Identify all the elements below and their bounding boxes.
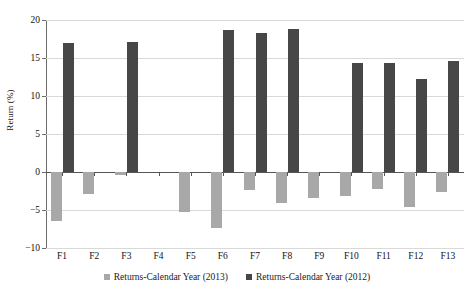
bar bbox=[352, 63, 363, 172]
bar bbox=[256, 33, 267, 172]
bar bbox=[372, 172, 383, 189]
x-tick-label: F13 bbox=[441, 251, 456, 261]
legend-label: Returns-Calendar Year (2013) bbox=[114, 272, 228, 282]
x-tick-label: F11 bbox=[376, 251, 390, 261]
x-tick-mark bbox=[94, 172, 95, 176]
bar bbox=[179, 172, 190, 212]
x-tick-mark bbox=[448, 172, 449, 176]
x-tick-label: F5 bbox=[186, 251, 196, 261]
x-tick-label: F9 bbox=[314, 251, 324, 261]
bar bbox=[83, 172, 94, 194]
legend-swatch-icon bbox=[104, 274, 110, 280]
bar bbox=[404, 172, 415, 207]
bar-chart: Return (%) 20151050−5−10 F1F2F3F4F5F6F7F… bbox=[0, 0, 474, 293]
x-tick-mark bbox=[384, 172, 385, 176]
bar bbox=[416, 79, 427, 172]
x-tick-label: F3 bbox=[121, 251, 131, 261]
x-tick-label: F7 bbox=[250, 251, 260, 261]
x-tick-label: F10 bbox=[344, 251, 359, 261]
y-tick-mark bbox=[42, 248, 46, 249]
x-tick-label: F1 bbox=[57, 251, 67, 261]
legend-item: Returns-Calendar Year (2013) bbox=[104, 272, 228, 282]
x-tick-mark bbox=[255, 172, 256, 176]
x-tick-mark bbox=[351, 172, 352, 176]
bar bbox=[115, 172, 126, 175]
x-tick-mark bbox=[287, 172, 288, 176]
bar bbox=[384, 63, 395, 172]
bar bbox=[288, 29, 299, 172]
x-tick-mark bbox=[319, 172, 320, 176]
bar bbox=[51, 172, 62, 221]
y-tick-label: 20 bbox=[31, 15, 41, 25]
legend-swatch-icon bbox=[246, 274, 252, 280]
y-tick-label: −10 bbox=[25, 243, 40, 253]
y-tick-label: 15 bbox=[31, 53, 41, 63]
x-tick-mark bbox=[223, 172, 224, 176]
x-tick-mark bbox=[62, 172, 63, 176]
bar bbox=[211, 172, 222, 228]
y-tick-label: 10 bbox=[31, 91, 41, 101]
x-tick-mark bbox=[191, 172, 192, 176]
x-tick-label: F4 bbox=[154, 251, 164, 261]
bar bbox=[308, 172, 319, 198]
plot-area: 20151050−5−10 F1F2F3F4F5F6F7F8F9F10F11F1… bbox=[46, 20, 464, 248]
x-tick-label: F2 bbox=[89, 251, 99, 261]
x-tick-label: F8 bbox=[282, 251, 292, 261]
y-tick-label: −5 bbox=[30, 205, 40, 215]
y-tick-label: 5 bbox=[35, 129, 40, 139]
bar bbox=[448, 61, 459, 172]
legend-label: Returns-Calendar Year (2012) bbox=[256, 272, 370, 282]
bar bbox=[276, 172, 287, 203]
x-tick-mark bbox=[126, 172, 127, 176]
x-tick-label: F12 bbox=[408, 251, 423, 261]
x-tick-mark bbox=[159, 172, 160, 176]
x-tick-label: F6 bbox=[218, 251, 228, 261]
bar bbox=[436, 172, 447, 192]
x-tick-mark bbox=[416, 172, 417, 176]
gridline bbox=[46, 248, 464, 249]
bar bbox=[244, 172, 255, 190]
y-axis-title: Return (%) bbox=[5, 75, 15, 145]
y-tick-label: 0 bbox=[35, 167, 40, 177]
bar bbox=[63, 43, 74, 172]
bars-layer bbox=[46, 20, 464, 248]
bar bbox=[127, 42, 138, 172]
chart-legend: Returns-Calendar Year (2013)Returns-Cale… bbox=[0, 272, 474, 282]
legend-item: Returns-Calendar Year (2012) bbox=[246, 272, 370, 282]
bar bbox=[223, 30, 234, 172]
bar bbox=[340, 172, 351, 196]
